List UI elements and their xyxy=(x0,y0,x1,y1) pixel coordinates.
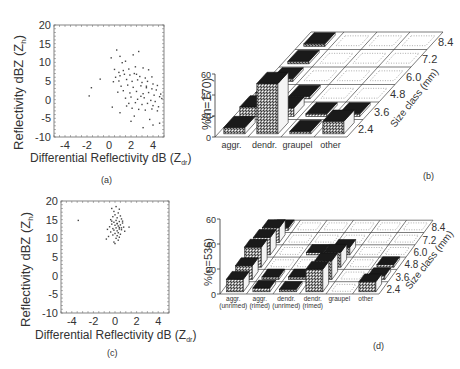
data-point xyxy=(115,227,116,228)
data-point xyxy=(123,226,124,227)
panel-b-caption: (b) xyxy=(423,171,434,181)
category-label: other xyxy=(320,140,341,150)
data-point xyxy=(153,94,154,95)
y-tick-label: -5 xyxy=(48,288,58,300)
data-point xyxy=(107,229,108,230)
data-point xyxy=(134,115,135,116)
data-point xyxy=(118,232,119,233)
empty-cell-marker xyxy=(359,248,383,255)
empty-cell-marker xyxy=(321,88,354,98)
data-point xyxy=(121,229,122,230)
size-class-label: 2.4 xyxy=(358,123,373,135)
data-point xyxy=(116,223,117,224)
data-point xyxy=(113,222,114,223)
data-point xyxy=(125,61,126,62)
data-point xyxy=(115,238,116,239)
data-point xyxy=(155,101,156,102)
data-point xyxy=(114,69,115,70)
y-tick-label: -5 xyxy=(41,112,51,124)
panel-b-ylabel: %(n=170) xyxy=(200,78,214,130)
empty-cell-marker xyxy=(350,223,374,230)
data-point xyxy=(125,97,126,98)
data-point xyxy=(130,121,131,122)
data-point xyxy=(157,110,158,111)
empty-cell-marker xyxy=(350,260,374,267)
empty-cell-marker xyxy=(403,223,427,230)
data-point xyxy=(136,91,137,92)
data-point xyxy=(157,85,158,86)
panel-c-caption: (c) xyxy=(107,348,118,358)
y-tick-label: 0 xyxy=(206,133,211,143)
data-point xyxy=(119,209,120,210)
data-point xyxy=(109,226,110,227)
x-tick-label: -4 xyxy=(67,315,77,327)
empty-cell-marker xyxy=(394,235,418,242)
data-point xyxy=(110,231,111,232)
panel-c-scatter: -4-202420151050-5-10 Reflectivity dBZ (Z… xyxy=(18,195,196,358)
bar-front-face xyxy=(377,265,394,268)
data-point xyxy=(116,49,117,50)
y-tick-label: 20 xyxy=(39,19,51,31)
panel-d-3d-bar-chart: 6040200 aggr.(unrimed)aggr.(rimed)dendr.… xyxy=(202,215,455,351)
data-point xyxy=(112,216,113,217)
panel-c-points xyxy=(78,206,130,244)
data-point xyxy=(120,215,121,216)
data-point xyxy=(111,220,112,221)
data-point xyxy=(146,87,147,88)
data-point xyxy=(140,96,141,97)
bar-front-face xyxy=(288,61,309,64)
data-point xyxy=(122,222,123,223)
category-label: graupel xyxy=(282,140,312,150)
data-point xyxy=(137,99,138,100)
data-point xyxy=(148,92,149,93)
panel-d-bars xyxy=(226,220,399,292)
data-point xyxy=(139,76,140,77)
empty-cell-marker xyxy=(386,53,419,63)
data-point xyxy=(114,233,115,234)
data-point xyxy=(114,214,115,215)
data-point xyxy=(152,124,153,125)
data-point xyxy=(115,77,116,78)
data-point xyxy=(150,100,151,101)
data-point xyxy=(118,225,119,226)
category-sublabel: (rimed) xyxy=(249,302,270,310)
data-point xyxy=(152,105,153,106)
data-point xyxy=(131,108,132,109)
data-point xyxy=(121,218,122,219)
y-tick-label: 0 xyxy=(52,270,58,282)
data-point xyxy=(140,85,141,86)
data-point xyxy=(118,240,119,241)
bar-front-face xyxy=(306,114,327,117)
bar-front-face xyxy=(306,269,323,292)
data-point xyxy=(119,75,120,76)
data-point xyxy=(119,227,120,228)
data-point xyxy=(151,88,152,89)
x-tick-label: -2 xyxy=(89,315,99,327)
x-tick-label: 2 xyxy=(134,315,140,327)
data-point xyxy=(120,224,121,225)
data-point xyxy=(133,54,134,55)
data-point xyxy=(121,227,122,228)
x-tick-label: 2 xyxy=(128,139,134,151)
data-point xyxy=(118,72,119,73)
data-point xyxy=(111,57,112,58)
panel-a-caption: (a) xyxy=(101,175,112,185)
empty-cell-marker xyxy=(270,260,294,267)
data-point xyxy=(111,208,112,209)
data-point xyxy=(116,217,117,218)
bar-front-face xyxy=(290,131,311,134)
data-point xyxy=(119,56,120,57)
category-label: aggr. xyxy=(221,140,241,150)
bar-front-face xyxy=(359,282,376,292)
data-point xyxy=(152,83,153,84)
data-point xyxy=(147,81,148,82)
data-point xyxy=(151,108,152,109)
bar-front-face xyxy=(288,277,305,280)
data-point xyxy=(78,220,79,221)
empty-cell-marker xyxy=(304,71,337,81)
y-tick-label: 0 xyxy=(211,290,216,300)
data-point xyxy=(117,92,118,93)
panel-c-ylabel: Reflectivity dBZ (Zh) xyxy=(18,212,35,327)
category-sublabel: (rimed) xyxy=(302,302,323,310)
empty-cell-marker xyxy=(279,248,303,255)
